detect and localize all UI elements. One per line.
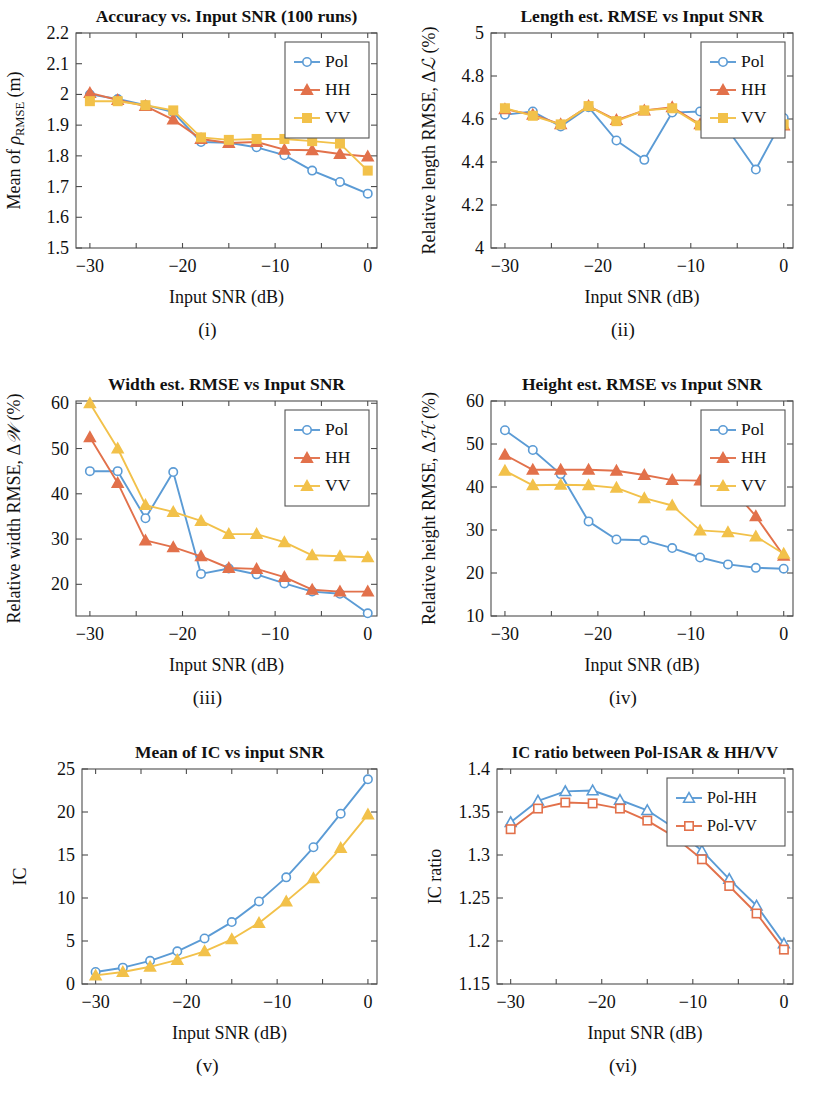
data-point-marker: [141, 514, 149, 522]
x-axis-label: Input SNR (dB): [169, 655, 284, 676]
chart-title: Mean of IC vs input SNR: [135, 742, 324, 762]
legend-label-hh: HH: [325, 79, 351, 99]
y-tick-label: 50: [51, 439, 69, 459]
y-tick-label: 5: [66, 931, 75, 951]
data-point-marker: [113, 97, 121, 105]
data-point-marker: [336, 810, 344, 818]
data-point-marker: [529, 112, 537, 120]
legend-label-hh: HH: [741, 79, 767, 99]
data-point-marker: [780, 565, 788, 573]
y-axis-label: Relative length RMSE, Δℒ (%): [419, 26, 440, 254]
data-point-marker: [336, 139, 344, 147]
data-point-marker: [85, 432, 96, 442]
plot-frame: [82, 769, 377, 984]
y-tick-label: 20: [51, 574, 69, 594]
data-point-marker: [668, 544, 676, 552]
x-tick-label: 0: [363, 624, 372, 644]
legend-label-pol: Pol: [325, 419, 348, 439]
data-point-marker: [225, 136, 233, 144]
y-tick-label: 1.4: [468, 759, 491, 779]
data-point-marker: [255, 897, 263, 905]
subplot-plot-vi: IC ratio between Pol-ISAR & HH/VV1.151.2…: [415, 736, 831, 1048]
data-point-marker: [303, 426, 311, 434]
x-tick-label: −10: [677, 256, 705, 276]
data-point-marker: [303, 114, 311, 122]
x-tick-label: −20: [168, 624, 196, 644]
y-tick-label: 1.25: [459, 888, 491, 908]
legend-label-vv: VV: [325, 107, 351, 127]
subplot-plot-i: Accuracy vs. Input SNR (100 runs)1.51.61…: [0, 0, 415, 312]
x-tick-label: −20: [588, 992, 616, 1012]
figure-grid: Accuracy vs. Input SNR (100 runs)1.51.61…: [0, 0, 831, 1104]
data-point-marker: [140, 535, 151, 545]
data-point-marker: [612, 117, 620, 125]
data-point-marker: [612, 535, 620, 543]
y-tick-label: 50: [466, 434, 484, 454]
chart-title: Width est. RMSE vs Input SNR: [108, 374, 345, 394]
x-tick-label: −20: [584, 624, 612, 644]
legend-label-vv: VV: [741, 107, 767, 127]
y-tick-label: 4.2: [462, 195, 485, 215]
data-point-marker: [719, 114, 727, 122]
subplot-plot-iv: Height est. RMSE vs Input SNR10203040506…: [415, 368, 831, 680]
legend-label-vv: VV: [741, 475, 767, 495]
data-point-marker: [640, 106, 648, 114]
data-point-marker: [752, 564, 760, 572]
x-tick-label: 0: [779, 256, 788, 276]
y-tick-label: 20: [57, 802, 75, 822]
chart-svg-iii: Width est. RMSE vs Input SNR2030405060−3…: [0, 368, 415, 680]
x-tick-label: −10: [677, 624, 705, 644]
chart-svg-v: Mean of IC vs input SNR0510152025−30−20−…: [0, 736, 415, 1048]
y-axis-label: Relative width RMSE, Δ𝒲 (%): [4, 393, 25, 623]
y-axis-label: IC ratio: [425, 849, 445, 905]
data-point-marker: [86, 467, 94, 475]
data-point-marker: [226, 934, 237, 944]
subplot-plot-v: Mean of IC vs input SNR0510152025−30−20−…: [0, 736, 415, 1048]
data-point-marker: [506, 825, 514, 833]
y-tick-label: 30: [51, 529, 69, 549]
x-tick-label: −20: [584, 256, 612, 276]
data-point-marker: [752, 909, 760, 917]
y-tick-label: 1.3: [468, 845, 491, 865]
data-point-marker: [643, 816, 651, 824]
data-point-marker: [612, 136, 620, 144]
data-point-marker: [668, 104, 676, 112]
data-point-marker: [364, 166, 372, 174]
y-tick-label: 60: [51, 393, 69, 413]
subplot-caption-ii: (ii): [611, 320, 635, 339]
legend-label-pol: Pol: [741, 419, 764, 439]
y-tick-label: 1.5: [47, 238, 70, 258]
data-point-marker: [309, 843, 317, 851]
data-point-marker: [584, 102, 592, 110]
legend-label-vv: VV: [325, 475, 351, 495]
x-tick-label: −20: [168, 256, 196, 276]
y-tick-label: 4: [475, 238, 484, 258]
data-point-marker: [685, 822, 693, 830]
y-tick-label: 10: [57, 888, 75, 908]
y-axis-label: Relative height RMSE, Δℋ (%): [419, 392, 440, 625]
x-axis-label: Input SNR (dB): [169, 287, 284, 308]
subplot-panel-iv: Height est. RMSE vs Input SNR10203040506…: [415, 368, 831, 736]
data-point-marker: [364, 609, 372, 617]
x-tick-label: −10: [261, 256, 289, 276]
data-point-marker: [725, 882, 733, 890]
data-point-marker: [282, 873, 290, 881]
x-tick-label: −30: [82, 992, 110, 1012]
data-point-marker: [616, 804, 624, 812]
chart-svg-i: Accuracy vs. Input SNR (100 runs)1.51.61…: [0, 0, 415, 312]
y-tick-label: 20: [466, 563, 484, 583]
chart-title: Accuracy vs. Input SNR (100 runs): [96, 6, 358, 26]
data-point-marker: [303, 58, 311, 66]
x-tick-label: −10: [261, 624, 289, 644]
legend-label-hh: HH: [741, 447, 767, 467]
y-tick-label: 40: [466, 477, 484, 497]
data-point-marker: [363, 809, 374, 819]
x-axis-label: Input SNR (dB): [584, 655, 699, 676]
y-tick-label: 1.7: [47, 177, 70, 197]
subplot-caption-vi: (vi): [609, 1056, 637, 1075]
y-tick-label: 0: [66, 974, 75, 994]
data-point-marker: [584, 517, 592, 525]
x-tick-label: −20: [172, 992, 200, 1012]
x-tick-label: 0: [363, 256, 372, 276]
data-point-marker: [500, 465, 511, 475]
